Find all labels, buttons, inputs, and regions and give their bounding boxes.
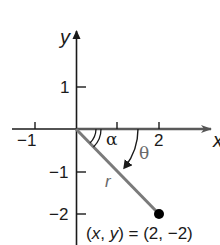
y-tick-label-neg1: −1	[49, 164, 68, 181]
theta-arc	[125, 129, 138, 167]
coordinate-diagram	[0, 0, 220, 245]
y-tick-label-neg2: −2	[49, 206, 68, 223]
alpha-label: α	[106, 131, 117, 148]
x-tick-label-neg1: −1	[17, 132, 36, 149]
x-axis-label: x	[213, 130, 220, 150]
alpha-arc-inner	[90, 129, 96, 143]
ray-label: r	[105, 173, 111, 190]
theta-label: θ	[139, 145, 149, 162]
point-label-y: y	[110, 224, 119, 243]
y-axis-label: y	[60, 27, 70, 47]
terminal-ray	[76, 129, 159, 214]
alpha-arc-outer	[94, 129, 102, 147]
point-label: (x, y) = (2, −2)	[86, 225, 193, 242]
x-tick-label-2: 2	[154, 132, 163, 149]
point-marker	[154, 209, 164, 219]
point-label-value: ) = (2, −2)	[118, 224, 193, 243]
y-tick-label-1: 1	[60, 79, 69, 96]
point-label-comma: ,	[100, 224, 109, 243]
point-label-x: x	[92, 224, 101, 243]
